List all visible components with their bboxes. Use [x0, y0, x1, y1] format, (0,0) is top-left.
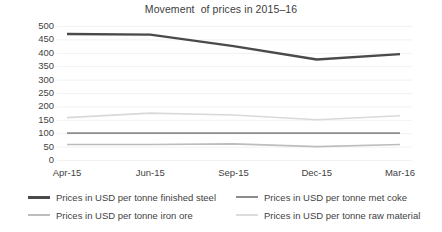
y-tick-label: 400: [18, 48, 54, 58]
legend-label-met-coke: Prices in USD per tonne met coke: [264, 192, 407, 203]
legend-label-raw-material: Prices in USD per tonne raw material: [264, 210, 420, 221]
legend-label-finished-steel: Prices in USD per tonne finished steel: [56, 192, 216, 203]
x-tick-label: Jun-15: [120, 168, 180, 178]
y-tick-label: 150: [18, 115, 54, 125]
price-movement-chart: Movement of prices in 2015–16 0501001502…: [0, 0, 442, 232]
legend-item-finished-steel[interactable]: Prices in USD per tonne finished steel: [28, 190, 216, 204]
y-tick-label: 100: [18, 128, 54, 138]
chart-legend: Prices in USD per tonne finished steel P…: [0, 188, 442, 232]
y-tick-label: 500: [18, 21, 54, 31]
x-tick-label: Dec-15: [287, 168, 347, 178]
series-line-0: [67, 34, 400, 59]
y-tick-label: 350: [18, 61, 54, 71]
y-tick-label: 0: [18, 155, 54, 165]
series-line-3: [67, 113, 400, 120]
x-tick-label: Apr-15: [37, 168, 97, 178]
series-line-2: [67, 144, 400, 147]
x-tick-label: Sep-15: [204, 168, 264, 178]
legend-line-swatch-finished-steel: [28, 196, 50, 199]
legend-item-iron-ore[interactable]: Prices in USD per tonne iron ore: [28, 208, 193, 222]
legend-item-met-coke[interactable]: Prices in USD per tonne met coke: [236, 190, 407, 204]
y-tick-label: 50: [18, 142, 54, 152]
x-tick-label: Mar-16: [370, 168, 430, 178]
y-tick-label: 300: [18, 75, 54, 85]
plot-area: 050100150200250300350400450500 Apr-15Jun…: [0, 0, 442, 185]
y-tick-label: 200: [18, 101, 54, 111]
legend-line-swatch-raw-material: [236, 214, 258, 216]
y-tick-label: 450: [18, 34, 54, 44]
legend-line-swatch-iron-ore: [28, 214, 50, 216]
legend-item-raw-material[interactable]: Prices in USD per tonne raw material: [236, 208, 420, 222]
plot-svg: [0, 0, 442, 185]
legend-line-swatch-met-coke: [236, 196, 258, 198]
legend-label-iron-ore: Prices in USD per tonne iron ore: [56, 210, 193, 221]
y-tick-label: 250: [18, 88, 54, 98]
